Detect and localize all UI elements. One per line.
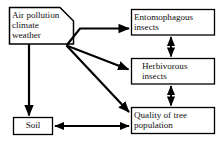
diagram-canvas: Air pollution climate weather Entomophag… xyxy=(0,0,223,145)
node-herbivorous-box xyxy=(132,59,215,85)
node-quality-box xyxy=(132,108,215,134)
edge-sources-to-entomophagous xyxy=(67,29,130,46)
node-entomophagous-box xyxy=(132,10,215,36)
node-sources-box xyxy=(10,8,74,45)
edge-sources-to-herbivorous xyxy=(67,46,129,70)
edge-sources-to-quality xyxy=(67,46,130,113)
node-soil-box xyxy=(14,118,53,135)
diagram-graphics xyxy=(0,0,223,145)
